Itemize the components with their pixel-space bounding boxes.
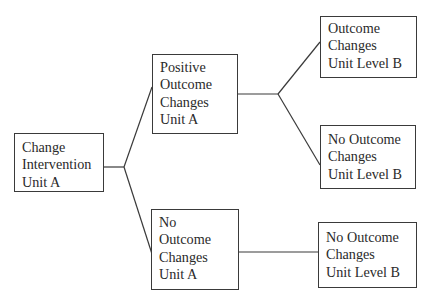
node-text-line: Unit A (159, 266, 238, 283)
node-change-intervention-unit-a: Change Intervention Unit A (14, 133, 104, 192)
edge-root-to-no-a (124, 167, 152, 254)
node-text-line: Changes (159, 249, 238, 266)
node-no-outcome-changes-unit-level-b-upper: No Outcome Changes Unit Level B (320, 125, 416, 189)
node-text-line: Changes (160, 94, 237, 111)
node-text-line: Unit A (160, 111, 237, 128)
node-text-line: Outcome (160, 76, 237, 93)
node-text-line: Unit Level B (328, 166, 415, 183)
edge-positive-a-to-b1 (278, 42, 320, 94)
edge-root-to-positive-a (124, 87, 152, 167)
node-text-line: Positive (160, 59, 237, 76)
edge-positive-a-to-b2 (278, 94, 320, 165)
node-no-outcome-changes-unit-level-b-lower: No Outcome Changes Unit Level B (318, 222, 417, 288)
node-text-line: Unit Level B (328, 55, 416, 72)
node-positive-outcome-changes-unit-a: Positive Outcome Changes Unit A (152, 54, 238, 134)
node-outcome-changes-unit-level-b: Outcome Changes Unit Level B (320, 16, 417, 78)
node-text-line: Outcome (159, 231, 238, 248)
node-no-outcome-changes-unit-a: No Outcome Changes Unit A (151, 209, 239, 290)
node-text-line: Outcome (328, 20, 416, 37)
node-text-line: Change (22, 139, 103, 156)
node-text-line: Changes (328, 148, 415, 165)
node-text-line: Changes (328, 37, 416, 54)
node-text-line: Unit A (22, 174, 103, 191)
node-text-line: Intervention (22, 156, 103, 173)
node-text-line: Changes (326, 246, 416, 263)
node-text-line: Unit Level B (326, 264, 416, 281)
node-text-line: No (159, 214, 238, 231)
node-text-line: No Outcome (326, 229, 416, 246)
node-text-line: No Outcome (328, 131, 415, 148)
